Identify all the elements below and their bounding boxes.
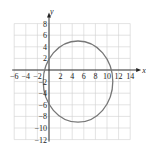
x-tick-label: 14 [126,72,134,81]
y-tick-label: −12 [34,136,47,145]
y-tick-label: −4 [38,89,47,98]
x-tick-label: 8 [93,72,97,81]
y-tick-label: 2 [43,54,47,63]
x-tick-label: 10 [103,72,111,81]
y-tick-label: −10 [34,124,47,133]
x-axis-arrow-icon [136,68,141,72]
x-tick-label: 6 [82,72,86,81]
x-tick-label: 2 [59,72,63,81]
x-tick-label: 4 [70,72,74,81]
x-tick-label: 12 [115,72,123,81]
y-axis-label: y [49,7,54,16]
y-tick-label: −2 [38,78,47,87]
y-tick-label: 4 [43,43,47,52]
x-axis-label: x [141,66,146,75]
y-tick-label: 6 [43,31,47,40]
y-tick-label: 8 [43,20,47,29]
y-tick-label: −8 [38,112,47,121]
x-tick-label: −4 [22,72,31,81]
ellipse-graph: xy −6−4−224681012148642−2−4−6−8−10−12 [0,0,146,150]
x-tick-label: −6 [10,72,19,81]
y-tick-label: −6 [38,101,47,110]
